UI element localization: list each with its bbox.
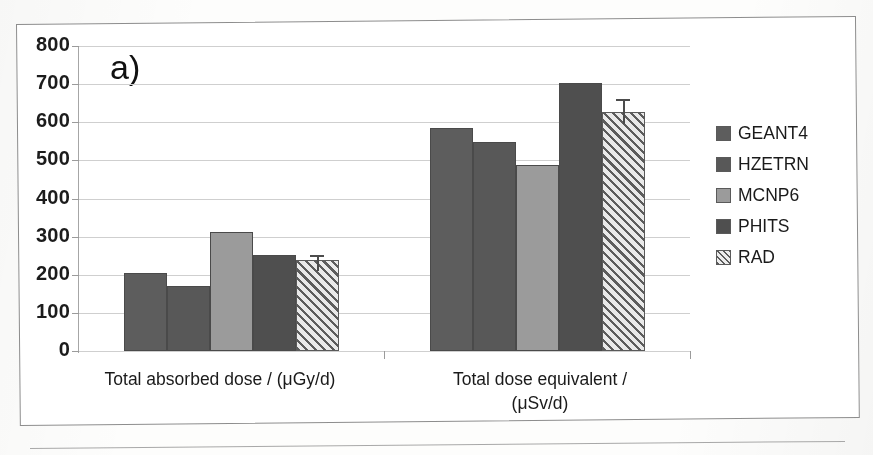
y-axis-tick-labels: 0100200300400500600700800 <box>4 0 70 400</box>
bar-phits-group-2 <box>559 83 602 351</box>
x-axis-tick-2 <box>690 351 691 359</box>
bar-mcnp6-group-2 <box>516 165 559 351</box>
x-axis-label-line-1: Total dose equivalent / <box>390 368 690 392</box>
x-axis-label-dose-equivalent: Total dose equivalent /(μSv/d) <box>390 368 690 415</box>
x-axis-tick-1 <box>384 351 385 359</box>
legend-item-rad[interactable]: RAD <box>716 242 856 273</box>
bar-chart: a) 0100200300400500600700800 Total absor… <box>0 0 873 455</box>
legend-swatch-hzetrn-icon <box>716 157 731 172</box>
y-axis-tick-label: 500 <box>14 147 70 170</box>
x-axis-label-absorbed-dose: Total absorbed dose / (μGy/d) <box>60 368 380 392</box>
bar-mcnp6-group-1 <box>210 232 253 351</box>
error-bar-cap-rad-group-1 <box>310 255 324 257</box>
y-axis-tick-label: 0 <box>14 338 70 361</box>
y-axis-tick-label: 600 <box>14 109 70 132</box>
bar-rad-group-1 <box>296 260 339 352</box>
error-bar-rad-group-1 <box>317 255 319 272</box>
legend-item-mcnp6[interactable]: MCNP6 <box>716 180 856 211</box>
error-bar-cap-rad-group-2 <box>616 99 630 101</box>
legend-swatch-rad-icon <box>716 250 731 265</box>
bar-series-layer <box>78 46 690 351</box>
legend-swatch-phits-icon <box>716 219 731 234</box>
bar-hzetrn-group-1 <box>167 286 210 351</box>
bar-phits-group-1 <box>253 255 296 351</box>
y-axis-tick-label: 200 <box>14 262 70 285</box>
bar-geant4-group-2 <box>430 128 473 351</box>
legend-item-geant4[interactable]: GEANT4 <box>716 118 856 149</box>
y-axis-tick-label: 100 <box>14 300 70 323</box>
y-axis-tick <box>72 351 79 352</box>
legend-item-phits[interactable]: PHITS <box>716 211 856 242</box>
y-axis-tick-label: 300 <box>14 224 70 247</box>
legend-label: RAD <box>738 247 775 268</box>
bar-rad-group-2 <box>602 112 645 351</box>
y-axis-tick-label: 400 <box>14 186 70 209</box>
legend-swatch-mcnp6-icon <box>716 188 731 203</box>
legend-label: HZETRN <box>738 154 809 175</box>
legend-swatch-geant4-icon <box>716 126 731 141</box>
bar-hzetrn-group-2 <box>473 142 516 351</box>
y-axis-tick-label: 700 <box>14 71 70 94</box>
error-bar-rad-group-2 <box>623 99 625 124</box>
legend-label: PHITS <box>738 216 790 237</box>
legend: GEANT4HZETRNMCNP6PHITSRAD <box>716 118 856 273</box>
legend-label: GEANT4 <box>738 123 808 144</box>
legend-label: MCNP6 <box>738 185 799 206</box>
legend-item-hzetrn[interactable]: HZETRN <box>716 149 856 180</box>
bar-geant4-group-1 <box>124 273 167 351</box>
y-axis-tick-label: 800 <box>14 33 70 56</box>
x-axis-label-line-2: (μSv/d) <box>390 392 690 416</box>
